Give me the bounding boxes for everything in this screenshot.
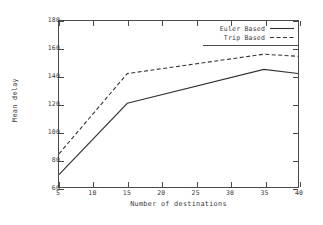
legend: Euler Based Trip Based	[203, 21, 299, 46]
x-axis-tick-label: 15	[112, 190, 142, 197]
x-axis-tick-mark	[266, 182, 267, 187]
y-axis-tick-label: 100	[20, 129, 60, 136]
y-axis-tick-label: 120	[20, 101, 60, 108]
x-axis-tick-mark	[231, 182, 232, 187]
x-axis-tick-mark	[128, 21, 129, 26]
series-trip-based-line	[59, 54, 298, 154]
x-axis-tick-label: 25	[181, 190, 211, 197]
y-axis-tick-mark	[293, 133, 298, 134]
legend-item: Trip Based	[203, 33, 294, 42]
x-axis-tick-label: 5	[43, 190, 73, 197]
y-axis-title: Mean delay	[11, 55, 19, 145]
x-axis-tick-mark	[197, 21, 198, 26]
x-axis-tick-label: 10	[77, 190, 107, 197]
x-axis-tick-mark	[300, 21, 301, 26]
x-axis-tick-mark	[93, 21, 94, 26]
y-axis-tick-mark	[293, 77, 298, 78]
legend-line-sample-dashed	[270, 34, 294, 41]
chart-figure: 6080100120140160180510152025303540 Numbe…	[0, 0, 323, 225]
x-axis-title: Number of destinations	[58, 200, 299, 208]
y-axis-tick-label: 160	[20, 45, 60, 52]
x-axis-tick-label: 35	[250, 190, 280, 197]
x-axis-tick-mark	[300, 182, 301, 187]
x-axis-tick-mark	[162, 182, 163, 187]
x-axis-tick-label: 30	[215, 190, 245, 197]
x-axis-tick-label: 40	[284, 190, 314, 197]
y-axis-tick-mark	[293, 105, 298, 106]
legend-line-sample-solid	[270, 25, 294, 32]
legend-item: Euler Based	[203, 24, 294, 33]
y-axis-tick-mark	[293, 161, 298, 162]
x-axis-tick-label: 20	[146, 190, 176, 197]
x-axis-tick-mark	[197, 182, 198, 187]
y-axis-tick-label: 80	[20, 157, 60, 164]
legend-label: Euler Based	[220, 25, 265, 33]
x-axis-tick-mark	[162, 21, 163, 26]
y-axis-tick-label: 140	[20, 73, 60, 80]
y-axis-tick-mark	[293, 49, 298, 50]
series-euler-based-line	[59, 69, 298, 174]
x-axis-tick-mark	[93, 182, 94, 187]
legend-label: Trip Based	[224, 34, 265, 42]
x-axis-tick-mark	[128, 182, 129, 187]
y-axis-tick-label: 180	[20, 17, 60, 24]
